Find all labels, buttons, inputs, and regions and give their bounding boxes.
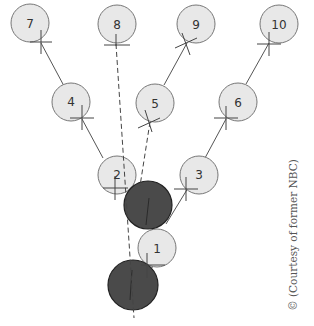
dashed-edge-5-A xyxy=(140,122,150,186)
node-label-10: 10 xyxy=(271,18,286,32)
edge-2-4 xyxy=(82,119,103,158)
edge-6-10 xyxy=(246,43,269,84)
node-label-1: 1 xyxy=(153,242,161,256)
edge-5-9 xyxy=(164,43,187,85)
node-label-5: 5 xyxy=(151,97,159,111)
node-label-7: 7 xyxy=(26,17,34,31)
credit-text: © (Courtesy of former NBC) xyxy=(287,159,299,311)
node-label-4: 4 xyxy=(67,95,75,109)
tree-diagram: 7 8 9 10 4 5 6 2 3 1 xyxy=(0,0,314,326)
node-label-6: 6 xyxy=(234,96,242,110)
image-credit: © (Courtesy of former NBC) xyxy=(283,150,303,320)
node-label-9: 9 xyxy=(192,18,200,32)
node-label-2: 2 xyxy=(113,168,121,182)
node-label-3: 3 xyxy=(195,168,203,182)
node-label-8: 8 xyxy=(113,18,121,32)
edge-4-7 xyxy=(41,43,64,86)
edge-3-6 xyxy=(205,119,226,158)
